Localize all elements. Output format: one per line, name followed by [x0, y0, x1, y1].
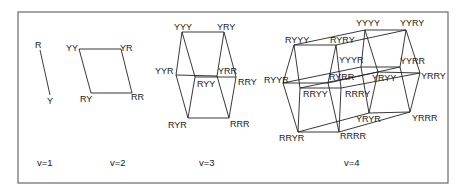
panel-v3: YYYYRYYYRYRRRYYRRYRYRRRRv=3: [155, 22, 257, 168]
node-label-YYYY: YYYY: [356, 18, 380, 28]
edge-YR-RR: [121, 49, 132, 93]
node-label-YRYY: YRYY: [372, 73, 396, 83]
edge-RYYY-RRYY: [294, 45, 300, 88]
node-label-YY: YY: [66, 43, 78, 53]
edge-YY-RY: [79, 49, 91, 93]
edge-R-Y: [40, 50, 50, 95]
edge-RYY-RYR: [188, 77, 195, 118]
node-label-RYRR: RYRR: [329, 72, 355, 82]
node-label-RYY: RYY: [197, 79, 215, 89]
panel-v2: YYYRRYRRv=2: [66, 43, 144, 168]
edge-YYR-RYR: [176, 75, 188, 118]
hypercube-diagram-canvas: RYv=1YYYRRYRRv=2YYYYRYYYRYRRRYYRRYRYRRRR…: [0, 0, 465, 191]
node-label-YYR: YYR: [155, 66, 174, 76]
node-label-Y: Y: [47, 96, 53, 106]
panels-group: RYv=1YYYRRYRRv=2YYYYRYYYRYRRRYYRRYRYRRRR…: [35, 18, 446, 168]
node-label-YYYR: YYYR: [339, 55, 364, 65]
node-label-YYY: YYY: [174, 22, 192, 32]
panel-caption-v2: v=2: [110, 157, 126, 168]
panel-v1: RYv=1: [35, 40, 53, 168]
node-label-RRR: RRR: [230, 119, 250, 129]
node-label-YR: YR: [120, 43, 133, 53]
edge-RRY-RRR: [229, 77, 236, 118]
node-label-YYRY: YYRY: [400, 18, 424, 28]
node-label-RRY: RRY: [238, 77, 257, 87]
edge-YRRY-YRRR: [410, 73, 420, 112]
node-label-YRRY: YRRY: [421, 71, 446, 81]
edge-RYRR-RRRR: [328, 83, 339, 132]
node-label-RR: RR: [131, 92, 144, 102]
node-label-RRRR: RRRR: [340, 131, 366, 141]
edge-YRYR-YRRR: [369, 112, 410, 113]
node-label-R: R: [35, 40, 42, 50]
node-label-RYRY: RYRY: [330, 35, 355, 45]
node-label-RY: RY: [80, 94, 92, 104]
edge-YYY-RYY: [182, 32, 195, 77]
edge-RRRY-RRRR: [339, 88, 341, 132]
edge-YYRR-YRRR: [400, 67, 410, 112]
node-label-RRYR: RRYR: [279, 133, 305, 143]
node-label-YYRR: YYRR: [400, 56, 426, 66]
panel-v4: YYYYYYRYRYYYRYRYYYYRYYRRRYYRRYRRYRYYYRRY…: [264, 18, 446, 168]
edge-YYR-YRR: [176, 75, 217, 76]
edge-RRYY-RRYR: [298, 88, 300, 132]
edge-YYRY-YRRY: [406, 30, 420, 73]
node-label-RRRY: RRRY: [345, 89, 370, 99]
node-label-RYR: RYR: [168, 120, 187, 130]
node-label-RYYY: RYYY: [285, 35, 309, 45]
node-label-YRR: YRR: [218, 66, 238, 76]
panel-caption-v1: v=1: [37, 157, 53, 168]
node-label-RRYY: RRYY: [303, 89, 328, 99]
panel-caption-v3: v=3: [199, 157, 215, 168]
node-label-YRY: YRY: [217, 22, 235, 32]
node-label-RYYR: RYYR: [264, 75, 289, 85]
hypercube-figure: RYv=1YYYRRYRRv=2YYYYRYYYRYRRRYYRRYRYRRRR…: [0, 0, 465, 191]
edge-YYY-YYR: [176, 32, 182, 75]
edge-YRR-RRR: [217, 76, 229, 118]
node-label-YRYR: YRYR: [356, 114, 381, 124]
node-label-YRRR: YRRR: [412, 113, 438, 123]
panel-caption-v4: v=4: [344, 157, 360, 168]
edge-RYYR-RRYR: [283, 83, 298, 132]
